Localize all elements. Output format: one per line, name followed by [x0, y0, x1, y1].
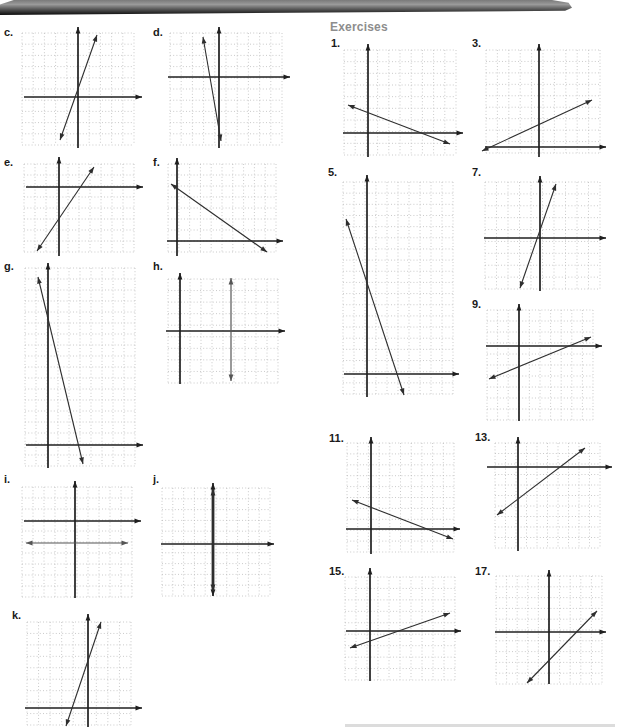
graph-label-h: h. — [153, 260, 163, 272]
graph-label-i: i. — [4, 473, 10, 485]
arrowhead-icon — [517, 304, 522, 311]
graph-figure-e — [24, 157, 143, 256]
x-axis — [168, 75, 290, 80]
plotted-line — [229, 278, 234, 381]
x-axis — [346, 527, 460, 532]
x-axis — [484, 236, 606, 241]
graph-label-g: g. — [4, 260, 14, 272]
arrowhead-icon — [443, 139, 450, 144]
arrowhead-icon — [457, 131, 464, 136]
graph-figure-11 — [346, 437, 460, 554]
graph-figure-c — [22, 27, 142, 148]
arrowhead-icon — [454, 527, 461, 532]
arrowhead-icon — [178, 273, 183, 280]
arrowhead-icon — [97, 622, 102, 629]
graph-label-9: 9. — [472, 298, 481, 310]
plotted-line — [348, 105, 450, 144]
arrowhead-icon — [596, 344, 603, 349]
arrowhead-icon — [455, 629, 462, 634]
arrowhead-icon — [37, 244, 43, 251]
arrowhead-icon — [93, 35, 98, 42]
arrowhead-icon — [66, 719, 71, 726]
dotted-grid — [487, 310, 593, 420]
dotted-grid — [343, 182, 453, 394]
arrowhead-icon — [346, 219, 351, 226]
arrowhead-icon — [73, 481, 78, 488]
graph-figure-13 — [487, 437, 612, 551]
y-axis — [86, 614, 91, 727]
plotted-line — [37, 277, 84, 464]
arrowhead-icon — [552, 184, 557, 191]
graph-figure-j — [161, 483, 274, 596]
y-axis — [517, 304, 522, 421]
plotted-line — [66, 622, 101, 726]
plotted-line — [346, 219, 404, 395]
arrowhead-icon — [600, 630, 607, 635]
graph-figure-17 — [495, 570, 606, 684]
arrowhead-icon — [277, 239, 284, 244]
arrowhead-icon — [600, 236, 607, 241]
y-axis — [369, 437, 374, 554]
plotted-line — [520, 184, 556, 288]
graph-label-5: 5. — [328, 166, 337, 178]
arrowhead-icon — [211, 489, 216, 496]
x-axis — [167, 239, 283, 244]
graph-figure-15 — [345, 568, 461, 681]
dotted-grid — [486, 50, 600, 153]
dotted-grid — [347, 443, 454, 552]
plotted-line — [497, 448, 585, 515]
graph-label-d: d. — [153, 26, 163, 38]
arrowhead-icon — [260, 246, 267, 252]
x-axis — [485, 145, 606, 150]
dotted-grid — [495, 443, 600, 548]
arrowhead-icon — [136, 95, 143, 100]
arrowhead-icon — [453, 372, 460, 377]
graph-label-1: 1. — [331, 37, 340, 49]
y-axis — [46, 263, 51, 468]
arrowhead-icon — [443, 613, 450, 618]
arrowhead-icon — [46, 263, 51, 270]
y-axis — [516, 437, 521, 551]
arrowhead-icon — [57, 157, 62, 164]
graph-figure-g — [25, 263, 143, 468]
graph-figure-h — [166, 273, 285, 384]
graph-figure-d — [168, 27, 290, 148]
plotted-line — [211, 489, 216, 591]
graph-figure-3 — [482, 44, 606, 157]
dotted-grid — [24, 164, 134, 252]
graph-label-k: k. — [12, 609, 21, 621]
graph-label-3: 3. — [472, 37, 481, 49]
dotted-grid — [22, 487, 132, 597]
arrowhead-icon — [606, 465, 613, 470]
plotted-line — [482, 100, 592, 151]
graphs-layer — [0, 0, 618, 727]
plotted-line — [37, 167, 94, 251]
dotted-grid — [170, 33, 282, 145]
y-axis — [368, 568, 373, 681]
arrowhead-icon — [520, 281, 525, 288]
graph-figure-9 — [486, 304, 602, 421]
arrowhead-icon — [135, 519, 142, 524]
arrowhead-icon — [400, 388, 405, 395]
x-axis — [25, 706, 142, 711]
y-axis — [178, 273, 183, 384]
arrowhead-icon — [348, 105, 355, 110]
arrowhead-icon — [137, 185, 144, 190]
graph-label-j: j. — [153, 473, 159, 485]
arrowhead-icon — [122, 541, 129, 546]
arrowhead-icon — [76, 27, 81, 34]
x-axis — [24, 95, 142, 100]
plotted-line — [527, 611, 597, 683]
arrowhead-icon — [537, 44, 542, 51]
graph-label-11: 11. — [329, 432, 344, 444]
graph-label-c: c. — [4, 26, 13, 38]
x-axis — [24, 519, 141, 524]
plotted-line — [489, 337, 591, 379]
arrowhead-icon — [284, 75, 291, 80]
arrowhead-icon — [584, 337, 591, 342]
graph-label-13: 13. — [475, 431, 490, 443]
arrowhead-icon — [26, 541, 33, 546]
arrowhead-icon — [369, 437, 374, 444]
arrowhead-icon — [516, 437, 521, 444]
arrowhead-icon — [279, 329, 286, 334]
